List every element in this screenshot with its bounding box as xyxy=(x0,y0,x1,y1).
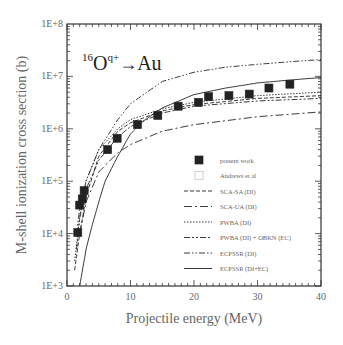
data-marker xyxy=(78,195,86,203)
data-marker xyxy=(113,134,121,142)
legend: present workAndrews et alSCA-SA (DI)SCA-… xyxy=(184,156,291,273)
annotation-mass: 16 xyxy=(82,51,94,63)
x-tick-label: 0 xyxy=(65,291,70,302)
data-marker xyxy=(205,93,213,101)
legend-label: Andrews et al xyxy=(220,172,256,179)
series-line xyxy=(80,78,321,286)
data-marker xyxy=(225,92,233,100)
annotation-arrow: → xyxy=(119,54,137,74)
legend-label: ECPSSR (DI+EC) xyxy=(220,265,268,273)
chart: 010203040 1E+31E+41E+51E+61E+71E+8 16Oq+… xyxy=(0,0,343,345)
data-marker xyxy=(74,228,82,236)
legend-label: PWBA (DI) xyxy=(220,219,251,227)
legend-marker xyxy=(195,156,203,164)
data-marker xyxy=(265,84,273,92)
data-marker xyxy=(194,98,202,106)
y-tick-label: 1E+4 xyxy=(41,228,63,239)
data-marker xyxy=(154,111,162,119)
series-line xyxy=(77,60,322,234)
legend-marker xyxy=(195,172,203,180)
legend-label: present work xyxy=(220,157,255,164)
annotation-target: Au xyxy=(137,52,161,74)
y-tick-label: 1E+3 xyxy=(41,280,63,291)
annotation-ion: O xyxy=(93,52,107,74)
legend-label: PWBA (DI) + OBKN (EC) xyxy=(220,234,291,242)
data-marker xyxy=(80,187,88,195)
annotation-reaction: 16Oq+→Au xyxy=(82,51,162,74)
y-tick-label: 1E+7 xyxy=(41,70,63,81)
y-tick-label: 1E+6 xyxy=(41,123,63,134)
data-marker xyxy=(133,121,141,129)
annotation-charge: q+ xyxy=(107,51,119,63)
x-axis-title: Projectile energy (MeV) xyxy=(126,311,263,327)
legend-label: SCA-SA (DI) xyxy=(220,188,256,196)
legend-label: ECPSSR (DI) xyxy=(220,250,256,258)
x-tick-label: 20 xyxy=(189,291,199,302)
y-axis-title: M-shell ionization cross section (b) xyxy=(14,56,30,255)
data-marker xyxy=(245,90,253,98)
data-marker xyxy=(104,146,112,154)
data-marker xyxy=(174,102,182,110)
y-tick-label: 1E+8 xyxy=(41,18,63,29)
series-line xyxy=(75,96,321,271)
data-marker xyxy=(286,80,294,88)
legend-label: SCA-UA (DI) xyxy=(220,203,257,211)
data-markers xyxy=(74,80,294,236)
x-tick-label: 10 xyxy=(126,291,136,302)
y-tick-label: 1E+5 xyxy=(41,175,63,186)
x-tick-label: 40 xyxy=(316,291,326,302)
x-tick-label: 30 xyxy=(253,291,263,302)
